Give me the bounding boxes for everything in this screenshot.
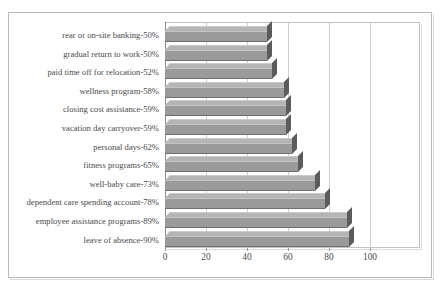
category-label: leave of absence-90% xyxy=(84,235,159,245)
tick-label-20: 20 xyxy=(201,252,210,262)
tick-label-40: 40 xyxy=(242,252,251,262)
category-label: vacation day carryover-59% xyxy=(62,123,159,133)
category-label: paid time off for relocation-52% xyxy=(47,67,159,77)
tick-mark-100 xyxy=(370,248,371,251)
category-label: gradual return to work-50% xyxy=(63,49,159,59)
category-label: fitness programs-65% xyxy=(83,160,159,170)
tick-mark-0 xyxy=(165,248,166,251)
gridline-100 xyxy=(370,22,371,248)
gridline-40 xyxy=(247,22,248,248)
value-axis-line xyxy=(165,22,166,248)
tick-label-60: 60 xyxy=(283,252,292,262)
tick-mark-60 xyxy=(288,248,289,251)
plot-area xyxy=(165,22,420,248)
gridline-20 xyxy=(206,22,207,248)
category-label: dependent care spending account-78% xyxy=(27,197,159,207)
category-label: well-baby care-73% xyxy=(90,179,159,189)
category-label: closing cost assistance-59% xyxy=(63,104,159,114)
category-label: wellness program-58% xyxy=(80,86,159,96)
category-label: personal days-62% xyxy=(93,142,159,152)
gridline-60 xyxy=(288,22,289,248)
tick-mark-80 xyxy=(329,248,330,251)
gridline-80 xyxy=(329,22,330,248)
category-label: employee assistance programs-89% xyxy=(36,216,159,226)
tick-mark-20 xyxy=(206,248,207,251)
tick-mark-40 xyxy=(247,248,248,251)
tick-label-80: 80 xyxy=(324,252,333,262)
category-label: rear or on-site banking-50% xyxy=(62,30,159,40)
tick-label-0: 0 xyxy=(163,252,168,262)
tick-label-100: 100 xyxy=(363,252,377,262)
chart-title xyxy=(0,0,441,5)
